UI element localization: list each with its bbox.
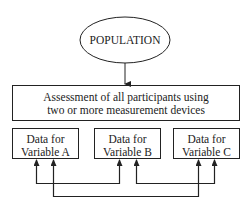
variable-a-line-2: Variable A (12, 145, 79, 159)
variable-a-line-1: Data for (12, 132, 79, 146)
assessment-line-2: two or more measurement devices (12, 103, 240, 117)
connector-a-c (54, 160, 199, 197)
connector-b-c (137, 160, 215, 184)
variable-c-line-1: Data for (173, 132, 240, 146)
variable-c-line-2: Variable C (173, 145, 240, 159)
variable-b-line-2: Variable B (94, 145, 161, 159)
assessment-line-1: Assessment of all participants using (12, 90, 240, 104)
flow-diagram: POPULATION Assessment of all participant… (0, 0, 252, 210)
population-label: POPULATION (80, 33, 170, 47)
connector-a-b (37, 160, 120, 184)
variable-b-line-1: Data for (94, 132, 161, 146)
